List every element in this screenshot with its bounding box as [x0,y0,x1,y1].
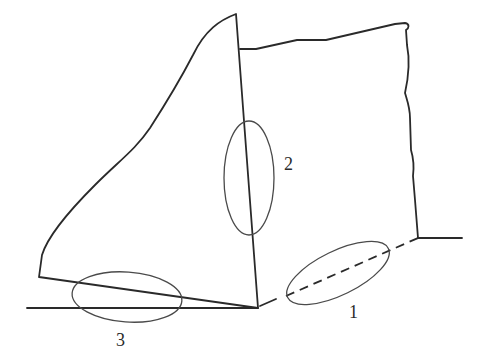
corner-stub [260,299,276,306]
zone-2-label: 2 [284,154,293,174]
zone-3-label: 3 [116,330,125,350]
zone-1-label: 1 [349,302,358,322]
zone-1-ellipse [278,229,398,318]
right-body-outline [240,23,418,238]
zone-3-ellipse [70,268,183,326]
diagram-canvas: 1 2 3 [0,0,485,361]
